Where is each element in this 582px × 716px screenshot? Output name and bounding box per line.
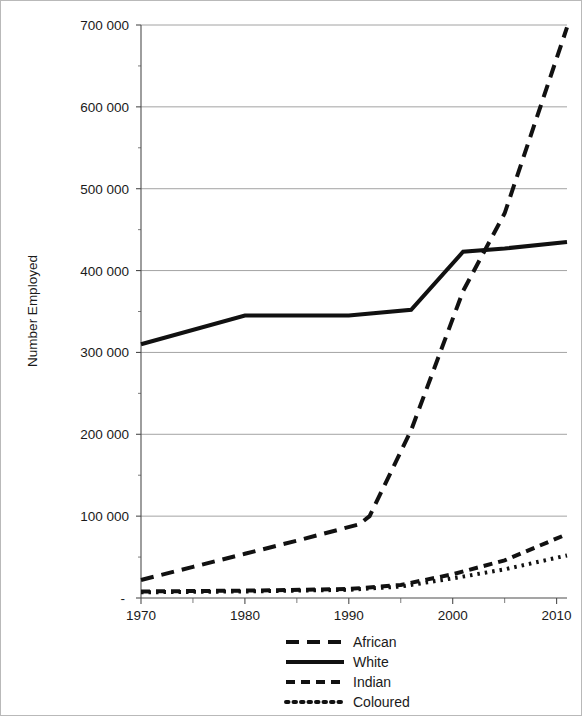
x-tick-label: 1980 bbox=[230, 608, 260, 623]
x-tick-label: 2010 bbox=[542, 608, 572, 623]
legend-label-coloured: Coloured bbox=[353, 694, 410, 710]
line-chart: -100 000200 000300 000400 000500 000600 … bbox=[1, 1, 582, 716]
y-tick-label: - bbox=[121, 591, 126, 606]
y-axis-title: Number Employed bbox=[25, 255, 40, 367]
chart-figure: -100 000200 000300 000400 000500 000600 … bbox=[0, 0, 582, 716]
legend-label-african: African bbox=[353, 634, 397, 650]
y-tick-label: 400 000 bbox=[80, 264, 129, 279]
y-tick-label: 200 000 bbox=[80, 427, 129, 442]
y-tick-label: 700 000 bbox=[80, 18, 129, 33]
x-tick-label: 2000 bbox=[438, 608, 468, 623]
y-tick-label: 100 000 bbox=[80, 509, 129, 524]
y-tick-label: 600 000 bbox=[80, 100, 129, 115]
y-tick-label: 300 000 bbox=[80, 345, 129, 360]
y-tick-label: 500 000 bbox=[80, 182, 129, 197]
legend-label-white: White bbox=[353, 654, 389, 670]
x-tick-label: 1990 bbox=[334, 608, 364, 623]
x-tick-label: 1970 bbox=[126, 608, 156, 623]
legend-label-indian: Indian bbox=[353, 674, 391, 690]
